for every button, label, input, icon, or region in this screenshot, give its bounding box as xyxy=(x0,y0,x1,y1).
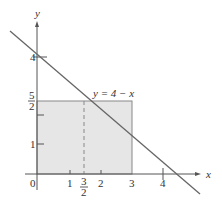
line-equation-label: y = 4 − x xyxy=(92,87,134,99)
y-axis-label: y xyxy=(34,7,40,19)
x-label-4: 4 xyxy=(160,177,166,189)
x-label-1: 1 xyxy=(67,177,73,189)
y-frac-den: 2 xyxy=(29,100,35,112)
x-label-2: 2 xyxy=(98,177,104,189)
x-label-3: 3 xyxy=(129,177,135,189)
x-axis-arrow-icon xyxy=(195,172,201,176)
y-label-1: 1 xyxy=(30,138,36,150)
y-axis-arrow-icon xyxy=(35,21,39,27)
y-label-4: 4 xyxy=(30,51,36,63)
origin-label: 0 xyxy=(30,177,36,189)
diagram: y x 0 4 1 5 2 1 2 3 4 3 2 y = 4 − x xyxy=(0,0,222,212)
x-frac-den: 2 xyxy=(81,186,87,198)
x-axis-label: x xyxy=(205,168,211,180)
